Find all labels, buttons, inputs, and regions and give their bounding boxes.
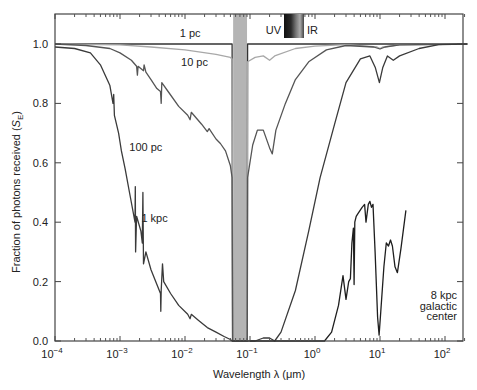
curve-label: center [426,310,457,322]
y-tick-label: 0.6 [33,157,48,169]
series-lines [55,44,467,341]
shaded-band [233,14,247,341]
uv-ir-spectrum-bar: UV IR [266,14,318,38]
x-tick-label: 101 [369,346,386,360]
plot-frame [55,14,463,341]
y-tick-label: 0.4 [33,216,48,228]
chart: 10−410−310−210−1100101102 0.00.20.40.60.… [0,0,477,390]
uv-label: UV [266,24,282,36]
x-axis-label: Wavelength λ (μm) [213,368,305,380]
series-line-2 [55,44,467,341]
y-tick-label: 0.0 [33,335,48,347]
y-tick-label: 0.2 [33,276,48,288]
y-axis-label: Fraction of photons received (SE) [10,111,25,273]
x-tick-label: 10−1 [236,346,258,360]
y-tick-label: 1.0 [33,38,48,50]
visible-light-gradient [284,14,304,38]
curve-label: 10 pc [181,56,208,68]
curve-label: 100 pc [129,141,163,153]
series-line-1 [55,44,467,341]
curve-label: 1 pc [180,27,201,39]
x-tick-label: 100 [304,346,321,360]
x-axis-ticks: 10−410−310−210−1100101102 [41,14,464,360]
curve-labels: 1 pc10 pc100 pc1 kpc8 kpcgalacticcenter [129,27,457,323]
series-line-0 [55,44,467,341]
y-tick-label: 0.8 [33,97,48,109]
series-line-4 [250,201,406,341]
x-tick-label: 10−4 [41,346,63,360]
ir-label: IR [307,24,318,36]
series-line-3 [55,44,467,341]
curve-label: 1 kpc [141,212,168,224]
x-tick-label: 10−2 [171,346,193,360]
x-tick-label: 102 [434,346,451,360]
x-tick-label: 10−3 [106,346,128,360]
ionizing-uv-band [233,14,247,341]
